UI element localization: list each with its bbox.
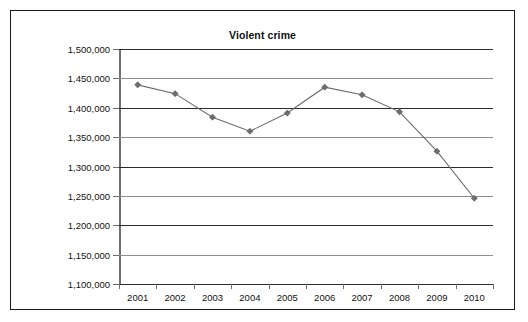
- x-axis-tick: [194, 284, 195, 289]
- data-point-marker: [359, 92, 365, 98]
- x-axis-label: 2006: [314, 292, 335, 303]
- x-axis-label: 2001: [127, 292, 148, 303]
- x-axis-tick: [343, 284, 344, 289]
- y-axis-label: 1,400,000: [68, 102, 110, 113]
- data-point-marker: [247, 128, 253, 134]
- x-axis-tick: [381, 284, 382, 289]
- y-axis-label: 1,300,000: [68, 161, 110, 172]
- x-axis-tick: [119, 284, 120, 289]
- x-axis-label: 2002: [165, 292, 186, 303]
- x-axis-tick: [493, 284, 494, 289]
- series-line-violent-crime: [119, 49, 493, 284]
- y-axis-label: 1,500,000: [68, 44, 110, 55]
- x-axis-tick: [156, 284, 157, 289]
- x-axis-label: 2009: [426, 292, 447, 303]
- chart-surface: Violent crime 1,500,0001,450,0001,400,00…: [11, 11, 514, 309]
- y-axis-label: 1,200,000: [68, 220, 110, 231]
- x-axis-label: 2004: [239, 292, 260, 303]
- data-point-marker: [209, 114, 215, 120]
- chart-figure-frame: Violent crime 1,500,0001,450,0001,400,00…: [10, 10, 515, 310]
- plot-area: 1,500,0001,450,0001,400,0001,350,0001,30…: [119, 49, 493, 284]
- x-axis-label: 2008: [389, 292, 410, 303]
- data-point-marker: [172, 91, 178, 97]
- y-axis-label: 1,250,000: [68, 190, 110, 201]
- x-axis-label: 2005: [277, 292, 298, 303]
- x-axis-tick: [306, 284, 307, 289]
- x-axis-label: 2007: [352, 292, 373, 303]
- x-axis-tick: [418, 284, 419, 289]
- y-axis-label: 1,150,000: [68, 249, 110, 260]
- series-polyline: [138, 85, 475, 198]
- data-point-marker: [284, 110, 290, 116]
- x-axis-tick: [231, 284, 232, 289]
- y-axis-label: 1,100,000: [68, 279, 110, 290]
- x-axis-label: 2003: [202, 292, 223, 303]
- chart-title: Violent crime: [11, 29, 514, 41]
- y-axis-label: 1,450,000: [68, 73, 110, 84]
- x-axis-tick: [456, 284, 457, 289]
- y-axis-label: 1,350,000: [68, 132, 110, 143]
- data-point-marker: [135, 82, 141, 88]
- x-axis-label: 2010: [464, 292, 485, 303]
- x-axis-tick: [269, 284, 270, 289]
